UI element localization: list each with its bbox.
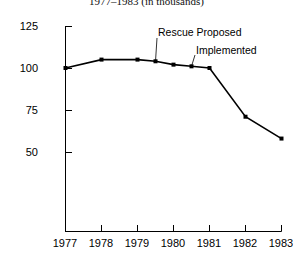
data-point-marker (136, 58, 140, 62)
data-point-markers (64, 58, 284, 141)
y-axis-ticks (66, 27, 73, 153)
data-point-marker (64, 66, 68, 70)
x-tick-label-1978: 1978 (81, 238, 121, 249)
data-point-marker (172, 63, 176, 67)
data-point-marker (244, 115, 248, 119)
x-tick-label-1980: 1980 (153, 238, 193, 249)
chart-root: 1977–1983 (in thousands) (0, 0, 293, 257)
data-series-line (64, 58, 284, 141)
annotation-rescue-proposed: Rescue Proposed (158, 27, 241, 38)
x-tick-label-1981: 1981 (189, 238, 229, 249)
data-point-marker (208, 66, 212, 70)
x-tick-label-1983: 1983 (261, 238, 293, 249)
y-tick-label-50: 50 (8, 147, 38, 158)
y-tick-label-100: 100 (8, 63, 38, 74)
axis-lines (66, 26, 282, 232)
data-point-marker (100, 58, 104, 62)
x-tick-label-1982: 1982 (225, 238, 265, 249)
y-tick-label-125: 125 (8, 21, 38, 32)
x-tick-label-1977: 1977 (45, 238, 85, 249)
x-axis-ticks (66, 225, 282, 232)
annotation-implemented: Implemented (196, 45, 257, 56)
chart-plot-area (0, 0, 293, 257)
x-tick-label-1979: 1979 (117, 238, 157, 249)
y-tick-label-75: 75 (8, 105, 38, 116)
data-point-marker (280, 137, 284, 141)
